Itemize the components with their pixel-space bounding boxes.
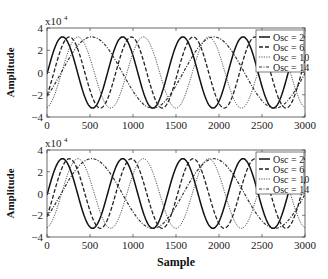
x-tick-label: 1000 [122,119,145,131]
x-tick-label: 0 [44,119,50,131]
x-tick-label: 1500 [165,239,188,251]
y-tick-label: 0 [38,67,44,79]
y-tick-label: 4 [38,144,44,156]
y-multiplier: x10 [45,137,62,149]
y-tick-label: −2 [31,89,43,101]
y-tick-label: 2 [38,166,44,178]
legend-entry: Osc = 14 [273,62,309,73]
y-tick-label: −4 [31,231,43,243]
x-tick-label: 2500 [251,239,274,251]
x-tick-label: 2000 [208,239,231,251]
y-tick-label: 4 [38,22,44,34]
x-tick-label: 3000 [294,239,317,251]
y-multiplier-exponent: 4 [64,14,68,22]
panel-bottom: 050010001500200025003000−4−2024x104Ampli… [4,136,317,269]
y-tick-label: 2 [38,44,44,56]
y-axis-label: Amplitude [4,47,16,97]
legend: Osc = 2Osc = 6Osc = 10Osc = 14 [256,152,309,195]
x-tick-label: 2500 [251,119,274,131]
y-multiplier-exponent: 4 [64,136,68,144]
x-tick-label: 2000 [208,119,231,131]
legend-entry: Osc = 14 [273,184,309,195]
x-tick-label: 1000 [122,239,145,251]
x-tick-label: 0 [44,239,50,251]
x-tick-label: 500 [82,119,99,131]
x-tick-label: 500 [82,239,99,251]
panel-top: 050010001500200025003000−4−2024x104Ampli… [4,14,317,131]
y-tick-label: 0 [38,188,44,200]
y-tick-label: −2 [31,209,43,221]
x-tick-label: 1500 [165,119,188,131]
x-axis-label: Sample [157,255,196,269]
y-axis-label: Amplitude [4,168,16,218]
x-tick-label: 3000 [294,119,317,131]
chart-figure: 050010001500200025003000−4−2024x104Ampli… [0,0,328,279]
y-tick-label: −4 [31,111,43,123]
y-multiplier: x10 [45,15,62,27]
legend: Osc = 2Osc = 6Osc = 10Osc = 14 [256,30,309,73]
